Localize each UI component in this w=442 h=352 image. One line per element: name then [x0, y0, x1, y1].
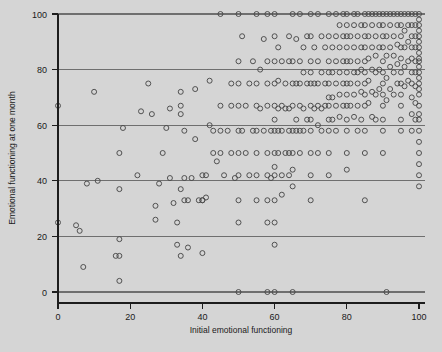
x-tick-label-0: 0	[55, 312, 60, 322]
y-tick-label-40: 40	[37, 176, 47, 186]
y-tick-label-60: 60	[37, 121, 47, 131]
x-tick-label-60: 60	[270, 312, 280, 322]
x-tick-label-20: 20	[125, 312, 135, 322]
y-tick-label-0: 0	[42, 288, 47, 298]
scatter-plot-figure: 020406080100 020406080100 Initial emotio…	[0, 0, 442, 352]
x-axis-label: Initial emotional functioning	[190, 325, 293, 335]
x-tick-label-40: 40	[197, 312, 207, 322]
y-axis-label: Emotional functioning at one month	[7, 91, 17, 225]
x-tick-label-100: 100	[411, 312, 426, 322]
y-tick-label-100: 100	[32, 10, 47, 20]
y-tick-label-20: 20	[37, 232, 47, 242]
y-tick-label-80: 80	[37, 65, 47, 75]
x-tick-label-80: 80	[342, 312, 352, 322]
